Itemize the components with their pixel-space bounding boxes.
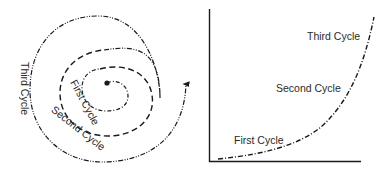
spiral-label-third-cycle: Third Cycle xyxy=(20,62,31,115)
chart-label-second-cycle: Second Cycle xyxy=(276,83,341,94)
chart-label-third-cycle: Third Cycle xyxy=(307,31,360,42)
spiral-diagram xyxy=(30,16,186,162)
spiral-third-cycle xyxy=(30,16,186,162)
chart-label-first-cycle: First Cycle xyxy=(234,135,284,146)
